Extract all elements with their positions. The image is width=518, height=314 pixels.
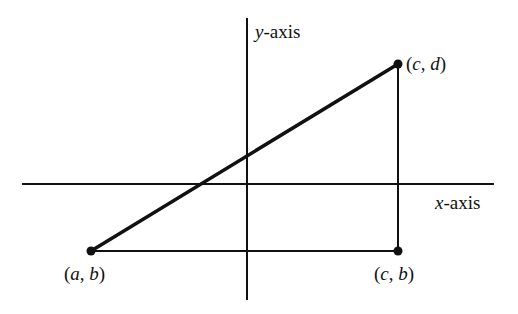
y-axis-label: y-axis xyxy=(255,22,300,41)
point-ab-label: (a, b) xyxy=(64,264,105,283)
coord-c: c xyxy=(412,53,420,74)
hypotenuse-segment xyxy=(91,64,398,251)
coord-a: a xyxy=(70,263,80,284)
paren-close: ) xyxy=(440,53,446,74)
point-cd-dot xyxy=(394,60,403,69)
point-cd-label: (c, d) xyxy=(406,54,446,73)
paren-close: ) xyxy=(99,263,105,284)
point-cb-label: (c, b) xyxy=(374,264,414,283)
x-axis-label: x-axis xyxy=(435,193,480,212)
coord-d: d xyxy=(430,53,440,74)
point-cb-dot xyxy=(394,247,403,256)
point-ab-dot xyxy=(87,247,96,256)
comma: , xyxy=(80,263,90,284)
coord-c: c xyxy=(380,263,388,284)
y-axis-suffix: -axis xyxy=(263,21,300,42)
coord-b: b xyxy=(398,263,408,284)
x-axis-suffix: -axis xyxy=(443,192,480,213)
paren-close: ) xyxy=(408,263,414,284)
coord-b: b xyxy=(89,263,99,284)
comma: , xyxy=(421,53,431,74)
comma: , xyxy=(389,263,399,284)
